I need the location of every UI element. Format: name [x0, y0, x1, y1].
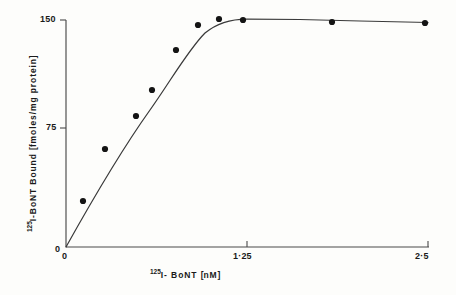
figure-panel: 150 75 0 0 1·25 2·5 125I-BoNT Bound [fmo…: [0, 0, 456, 295]
x-axis-isotope-superscript: 125: [150, 268, 161, 275]
y-tick-label-150: 150: [40, 14, 56, 24]
data-point-group: [80, 16, 428, 204]
x-axis-unit: nM: [203, 270, 217, 280]
data-point: [173, 47, 179, 53]
y-axis-isotope-superscript: 125: [26, 221, 33, 232]
data-point: [133, 113, 139, 119]
y-tick-label-75: 75: [46, 122, 56, 132]
data-point: [195, 22, 201, 28]
data-point: [329, 19, 335, 25]
y-axis-title: 125I-BoNT Bound [fmoles/mg protein]: [26, 55, 38, 232]
data-point: [422, 20, 428, 26]
x-axis-title: 125I- BoNT [nM]: [150, 268, 220, 280]
data-point: [80, 198, 86, 204]
data-point: [102, 146, 108, 152]
fitted-curve: [66, 19, 428, 247]
y-axis-unit-bracket-open: [: [28, 147, 38, 150]
data-point: [216, 16, 222, 22]
y-axis-unit: fmoles/mg protein: [28, 58, 38, 147]
x-tick-label-1-25: 1·25: [233, 251, 252, 261]
data-point: [240, 17, 246, 23]
x-axis-unit-bracket-close: ]: [218, 270, 221, 280]
y-tick-label-0: 0: [55, 244, 60, 254]
data-point: [149, 87, 155, 93]
x-tick-label-2-5: 2·5: [415, 251, 429, 261]
saturation-binding-plot: [0, 0, 456, 295]
y-axis-title-main: I-BoNT Bound: [28, 150, 38, 221]
x-tick-label-0: 0: [62, 251, 67, 261]
y-axis-unit-bracket-close: ]: [28, 55, 38, 58]
x-axis-title-main: I- BoNT: [161, 270, 201, 280]
